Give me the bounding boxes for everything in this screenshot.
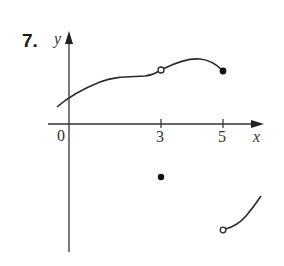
closed-dot-x5 xyxy=(220,68,227,75)
lower-branch xyxy=(220,196,261,233)
isolated-point-x3 xyxy=(158,174,164,180)
y-axis-label: y xyxy=(52,30,62,48)
open-circle-x5 xyxy=(220,227,226,233)
open-circle-x3 xyxy=(158,67,164,73)
tick-label-5: 5 xyxy=(218,128,226,145)
x-axis: 0 3 5 x xyxy=(48,119,264,145)
upper-branch xyxy=(57,59,226,107)
x-axis-arrow-icon xyxy=(251,120,264,128)
y-axis-arrow-icon xyxy=(65,31,73,44)
problem-number: 7. xyxy=(22,30,38,51)
origin-label: 0 xyxy=(57,127,65,144)
x-axis-label: x xyxy=(252,128,260,145)
function-graph: 7. y 0 3 5 x xyxy=(0,0,284,266)
tick-label-3: 3 xyxy=(156,128,164,145)
